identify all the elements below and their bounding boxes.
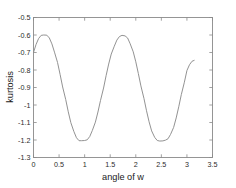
x-tick-label: 2 [134,160,138,169]
y-tick-label: -0.8 [18,66,30,75]
y-tick-label: -0.7 [18,48,30,57]
x-tick-label: 1.5 [105,160,115,169]
x-tick-label: 0 [32,160,36,169]
x-tick-label: 3 [185,160,189,169]
plot-frame [34,18,213,158]
y-tick-label: -1.2 [18,136,30,145]
y-axis-tick-labels: -1.3-1.2-1.1-1-0.9-0.8-0.7-0.6-0.5 [18,13,30,162]
y-axis-tick-marks [34,18,213,158]
x-tick-label: 1 [83,160,87,169]
y-axis-title: kurtosis [5,71,15,103]
plot-canvas: 00.511.522.533.5 -1.3-1.2-1.1-1-0.9-0.8-… [0,0,236,188]
chart-figure: 00.511.522.533.5 -1.3-1.2-1.1-1-0.9-0.8-… [0,0,236,188]
x-axis-tick-labels: 00.511.522.533.5 [32,160,218,169]
x-tick-label: 0.5 [54,160,64,169]
x-axis-tick-marks [34,18,213,158]
y-tick-label: -0.9 [18,83,30,92]
x-axis-title: angle of w [102,172,144,182]
y-tick-label: -0.5 [18,13,30,22]
x-tick-label: 2.5 [156,160,166,169]
x-tick-label: 3.5 [208,160,218,169]
y-tick-label: -1.3 [18,153,30,162]
kurtosis-curve [34,35,195,141]
y-tick-label: -1.1 [18,118,30,127]
axes-frame [34,18,213,158]
y-tick-label: -1 [24,101,30,110]
y-tick-label: -0.6 [18,31,30,40]
